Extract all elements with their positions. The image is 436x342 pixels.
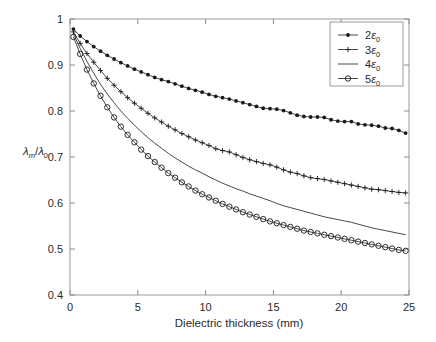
x-tick-label: 10 <box>199 301 211 313</box>
series-marker <box>119 61 123 65</box>
y-tick-label: 1 <box>57 13 63 25</box>
series-marker <box>126 64 130 68</box>
series-marker <box>302 115 306 119</box>
y-axis-title-sub-0: 0 <box>44 151 48 160</box>
series-marker <box>221 96 225 100</box>
chart-canvas: 0.40.50.60.70.80.91 0510152025 λm/λ0 Die… <box>0 0 436 342</box>
series-marker <box>336 119 340 123</box>
series-marker <box>112 57 116 61</box>
series-marker <box>153 76 157 80</box>
series-marker <box>234 99 238 103</box>
chart-legend: 2ε03ε04ε05ε0 <box>330 22 403 88</box>
y-tick-label: 0.5 <box>48 243 63 255</box>
series-marker <box>370 123 374 127</box>
series-marker <box>349 120 353 124</box>
series-marker <box>173 82 177 86</box>
series-marker <box>248 103 252 107</box>
series-marker <box>329 118 333 122</box>
series-marker <box>99 49 103 53</box>
series-marker <box>92 45 96 49</box>
series-marker <box>207 93 211 97</box>
y-tick-label: 0.7 <box>48 151 63 163</box>
series-marker <box>288 111 292 115</box>
x-tick-label: 25 <box>403 301 415 313</box>
series-marker <box>187 87 191 91</box>
series-marker <box>363 123 367 127</box>
series-marker <box>255 105 259 109</box>
series-marker <box>295 113 299 117</box>
x-axis-title: Dielectric thickness (mm) <box>175 317 304 329</box>
series-marker <box>275 107 279 111</box>
series-marker <box>383 126 387 130</box>
x-tick-label: 0 <box>67 301 73 313</box>
y-tick-label: 0.9 <box>48 59 63 71</box>
series-marker <box>139 70 143 74</box>
x-tick-label: 20 <box>335 301 347 313</box>
series-marker <box>397 128 401 132</box>
series-marker <box>227 97 231 101</box>
series-marker <box>78 34 82 38</box>
series-marker <box>85 40 89 44</box>
legend-sample-marker <box>346 33 350 37</box>
series-marker <box>404 131 408 135</box>
series-marker <box>214 94 218 98</box>
series-marker <box>377 124 381 128</box>
series-marker <box>316 115 320 119</box>
series-marker <box>146 73 150 77</box>
series-marker <box>261 106 265 110</box>
series-marker <box>390 127 394 131</box>
series-marker <box>194 88 198 92</box>
series-marker <box>160 78 164 82</box>
series-marker <box>268 107 272 111</box>
series-marker <box>343 120 347 124</box>
x-tick-label: 5 <box>135 301 141 313</box>
x-tick-label: 15 <box>267 301 279 313</box>
series-marker <box>282 109 286 113</box>
y-tick-label: 0.8 <box>48 105 63 117</box>
chart-figure: 0.40.50.60.70.80.91 0510152025 λm/λ0 Die… <box>0 0 436 342</box>
series-marker <box>105 53 109 57</box>
series-marker <box>180 84 184 88</box>
series-marker <box>356 122 360 126</box>
series-marker <box>309 115 313 119</box>
y-tick-label: 0.4 <box>48 289 63 301</box>
series-marker <box>200 90 204 94</box>
series-marker <box>133 67 137 71</box>
series-marker <box>322 116 326 120</box>
series-marker <box>241 101 245 105</box>
series-marker <box>166 80 170 84</box>
y-tick-label: 0.6 <box>48 197 63 209</box>
